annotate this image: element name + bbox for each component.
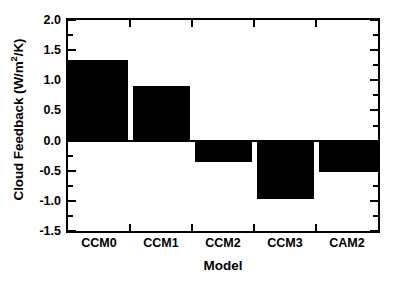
x-tick-bottom: [253, 224, 255, 231]
y-tick-minor: [373, 215, 378, 217]
y-axis-tick-labels: 2.01.51.00.50.0-0.5-1.0-1.5: [16, 0, 61, 290]
y-tick-major: [68, 170, 76, 172]
x-tick-top: [129, 20, 131, 27]
x-tick-label-ccm0: CCM0: [81, 236, 116, 250]
y-tick-major: [68, 20, 76, 21]
y-tick-minor: [68, 64, 73, 66]
y-tick-minor: [68, 125, 73, 127]
plot-inner: [68, 20, 378, 231]
y-tick-label: 0.5: [19, 104, 61, 116]
y-tick-minor: [373, 34, 378, 36]
y-tick-major: [370, 79, 378, 81]
y-tick-major: [68, 230, 76, 231]
x-tick-bottom: [191, 224, 193, 231]
cloud-feedback-bar-chart: Cloud Feedback (W/m2/K) 2.01.51.00.50.0-…: [0, 0, 394, 290]
x-tick-label-ccm1: CCM1: [143, 236, 178, 250]
x-tick-label-ccm3: CCM3: [267, 236, 302, 250]
x-tick-top: [253, 20, 255, 27]
y-tick-minor: [68, 215, 73, 217]
y-tick-minor: [373, 64, 378, 66]
y-tick-minor: [68, 185, 73, 187]
bar-ccm0: [68, 60, 128, 140]
y-tick-label: 1.0: [19, 74, 61, 86]
y-tick-minor: [68, 155, 73, 157]
x-tick-top: [191, 20, 193, 27]
bar-ccm3: [257, 141, 314, 199]
y-tick-major: [370, 109, 378, 111]
x-tick-bottom: [129, 224, 131, 231]
y-tick-minor: [373, 125, 378, 127]
y-tick-label: 2.0: [19, 14, 61, 26]
y-tick-major: [68, 109, 76, 111]
y-tick-major: [68, 140, 76, 142]
y-tick-major: [370, 140, 378, 142]
bar-cam2: [319, 141, 379, 172]
bar-ccm2: [195, 141, 252, 162]
y-tick-minor: [373, 185, 378, 187]
y-tick-major: [370, 230, 378, 231]
y-tick-major: [68, 49, 76, 51]
y-tick-major: [370, 170, 378, 172]
x-axis-title: Model: [66, 258, 380, 273]
y-tick-label: -0.5: [19, 165, 61, 177]
y-tick-label: -1.0: [19, 195, 61, 207]
bar-ccm1: [133, 86, 190, 140]
y-tick-minor: [68, 94, 73, 96]
y-tick-label: 1.5: [19, 44, 61, 56]
y-tick-minor: [68, 34, 73, 36]
x-tick-label-ccm2: CCM2: [205, 236, 240, 250]
y-tick-label: 0.0: [19, 135, 61, 147]
x-tick-label-cam2: CAM2: [329, 236, 364, 250]
y-tick-minor: [373, 94, 378, 96]
plot-area: [66, 18, 380, 233]
y-tick-minor: [373, 155, 378, 157]
y-tick-major: [370, 20, 378, 21]
y-tick-major: [68, 200, 76, 202]
y-tick-label: -1.5: [19, 225, 61, 237]
x-axis-tick-labels: CCM0CCM1CCM2CCM3CAM2: [66, 236, 380, 256]
y-tick-major: [68, 79, 76, 81]
x-tick-bottom: [315, 224, 317, 231]
x-tick-top: [315, 20, 317, 27]
y-tick-major: [370, 49, 378, 51]
y-tick-major: [370, 200, 378, 202]
